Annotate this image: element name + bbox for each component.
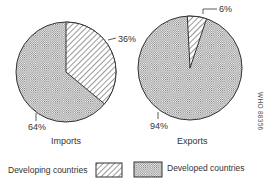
imports-pie bbox=[16, 22, 116, 122]
imports-developed-label: 64% bbox=[28, 122, 46, 132]
imports-developing-label: 36% bbox=[118, 34, 136, 44]
exports-title: Exports bbox=[177, 136, 208, 146]
exports-pie bbox=[138, 9, 242, 120]
legend-developing-swatch bbox=[96, 163, 122, 177]
legend-developed-label: Developed countries bbox=[167, 163, 245, 173]
exports-6-leader bbox=[203, 9, 217, 14]
exports-developing-label: 6% bbox=[219, 4, 232, 14]
legend-developing-label: Developing countries bbox=[8, 165, 87, 175]
legend-developed-swatch bbox=[134, 162, 162, 177]
figure-code: WHO 88356 bbox=[257, 92, 264, 130]
imports-36-leader bbox=[108, 38, 116, 40]
exports-developed-label: 94% bbox=[150, 121, 168, 131]
imports-title: Imports bbox=[51, 136, 81, 146]
